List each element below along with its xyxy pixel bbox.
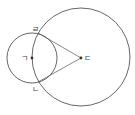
point-g bbox=[31, 57, 34, 60]
label-r: ㄹ bbox=[32, 25, 39, 34]
geometry-diagram: ㄱ ㄹ ㄴ ㄷ bbox=[0, 0, 135, 115]
label-g: ㄱ bbox=[21, 54, 28, 63]
point-d bbox=[80, 57, 83, 60]
segment-r-d bbox=[38, 33, 81, 58]
label-d: ㄷ bbox=[84, 54, 91, 63]
segment-n-d bbox=[38, 58, 81, 82]
label-n: ㄴ bbox=[32, 85, 39, 94]
